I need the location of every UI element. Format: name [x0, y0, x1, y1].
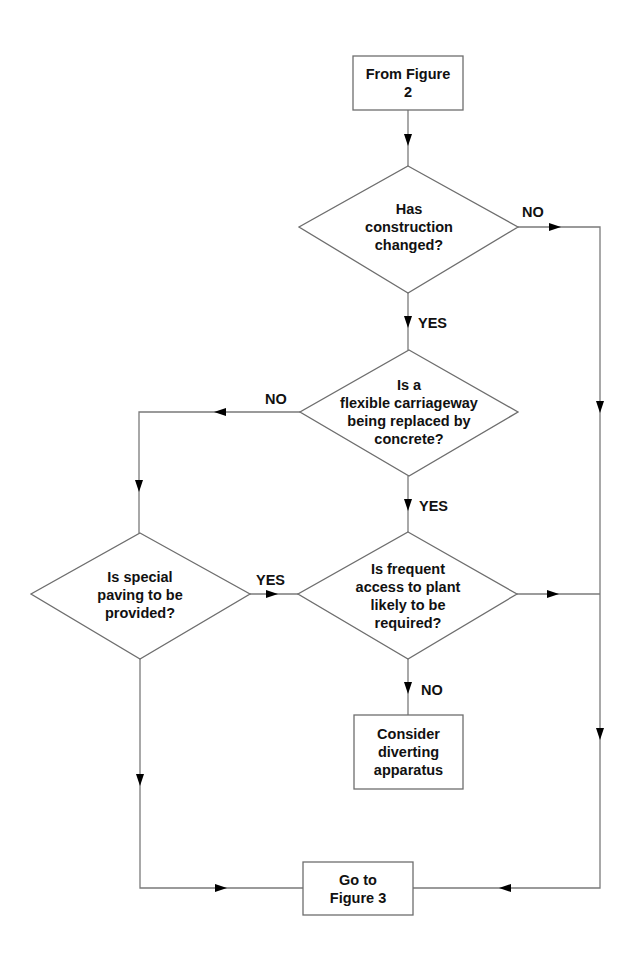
connector-q2-no	[139, 412, 300, 533]
arrow-right-icon	[547, 590, 559, 598]
decision-frequent-access-label: Is frequent access to plant likely to be…	[323, 557, 493, 635]
arrow-down-icon	[404, 316, 412, 328]
arrow-down-icon	[404, 682, 412, 694]
decision-special-paving-label: Is special paving to be provided?	[60, 564, 220, 626]
arrow-down-icon	[404, 499, 412, 511]
arrow-down-icon	[596, 728, 604, 740]
flowchart-canvas	[0, 0, 639, 969]
arrow-left-icon	[214, 408, 226, 416]
connector-q3-end	[140, 659, 303, 888]
arrow-right-icon	[549, 223, 561, 231]
end-box-label: Go to Figure 3	[303, 862, 413, 915]
arrow-down-icon	[135, 480, 143, 492]
arrow-right-icon	[215, 884, 227, 892]
start-box-label: From Figure 2	[353, 56, 463, 110]
action-box-label: Consider diverting apparatus	[354, 715, 463, 789]
edge-label-q2-no: NO	[265, 391, 287, 407]
arrow-down-icon	[136, 774, 144, 786]
edge-label-q1-yes: YES	[418, 315, 447, 331]
edge-label-q4-no: NO	[421, 682, 443, 698]
arrow-down-icon	[404, 134, 412, 146]
edge-label-q2-yes: YES	[419, 498, 448, 514]
arrow-right-icon	[266, 590, 278, 598]
decision-flexible-carriageway-label: Is a flexible carriageway being replaced…	[310, 373, 508, 451]
arrow-down-icon	[596, 401, 604, 413]
edge-label-q3-yes: YES	[256, 572, 285, 588]
decision-construction-changed-label: Has construction changed?	[319, 196, 499, 258]
edge-label-q1-no: NO	[522, 204, 544, 220]
arrow-left-icon	[499, 884, 511, 892]
